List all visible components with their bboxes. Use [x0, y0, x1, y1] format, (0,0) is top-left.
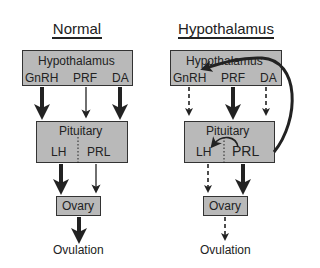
da-label-affected: DA	[260, 71, 277, 85]
da-label-normal: DA	[112, 71, 129, 85]
prf-label-normal: PRF	[73, 71, 97, 85]
ovary-label-affected: Ovary	[209, 199, 241, 213]
prl-label-normal: PRL	[87, 145, 110, 159]
gnrh-label-normal: GnRH	[25, 71, 58, 85]
hypothalamus-label-normal: Hypothalamus	[38, 54, 115, 68]
prl-label-affected: PRL	[232, 144, 259, 158]
pituitary-label-normal: Pituitary	[59, 124, 102, 138]
hypothalamus-label-affected: Hypothalamus	[186, 54, 263, 68]
prf-label-affected: PRF	[221, 71, 245, 85]
lh-label-normal: LH	[51, 145, 66, 159]
ovary-label-normal: Ovary	[62, 199, 94, 213]
gnrh-label-affected: GnRH	[173, 71, 206, 85]
ovulation-label-normal: Ovulation	[53, 243, 104, 257]
ovulation-label-affected: Ovulation	[200, 243, 251, 257]
panel-title-normal: Normal	[52, 20, 102, 39]
panel-title-hypothalamus: Hypothalamus	[178, 20, 274, 39]
pituitary-label-affected: Pituitary	[206, 124, 249, 138]
lh-label-affected: LH	[196, 145, 211, 159]
